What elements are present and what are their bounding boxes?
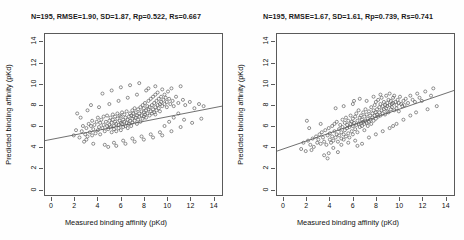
scatter-point [112,141,115,144]
scatter-point [404,97,407,100]
scatter-point [354,139,357,142]
scatter-point [78,136,81,139]
y-tick [271,41,275,42]
scatter-point [426,108,429,111]
x-axis-title-right: Measured binding affinity (pKd) [232,218,464,227]
scatter-point [409,94,412,97]
scatter-point [416,92,419,95]
y-tick [271,126,275,127]
scatter-point [188,100,191,103]
scatter-point [165,100,168,103]
scatter-point [170,87,173,90]
y-tick-label: 2 [262,163,269,173]
y-tick [39,147,43,148]
scatter-point [406,101,409,104]
scatter-point [348,136,351,139]
scatter-canvas-left [45,34,222,195]
scatter-point [79,116,82,119]
x-tick [190,197,191,201]
scatter-point [119,129,122,132]
scatter-point [342,105,345,108]
scatter-point [126,96,129,99]
scatter-point [308,127,311,130]
scatter-point [310,149,313,152]
y-tick [271,147,275,148]
scatter-point [95,120,98,123]
scatter-point [161,134,164,137]
scatter-point [344,135,347,138]
y-tick-label: 8 [30,99,37,109]
y-tick [39,41,43,42]
y-axis-title-right-text: Predicted binding affinity (pKd) [236,64,245,165]
scatter-point [347,119,350,122]
x-tick [329,197,330,201]
scatter-point [320,131,323,134]
scatter-point [130,124,133,127]
scatter-point [367,110,370,113]
scatter-point [395,122,398,125]
scatter-point [418,96,421,99]
scatter-point [317,138,320,141]
scatter-point [191,121,194,124]
scatter-point [370,122,373,125]
scatter-point [364,108,367,111]
y-tick [271,190,275,191]
y-tick-label: 4 [30,142,37,152]
scatter-canvas-right [277,34,454,195]
scatter-point [385,94,388,97]
scatter-point [365,99,368,102]
scatter-point [179,126,182,129]
scatter-point [156,91,159,94]
scatter-point [169,103,172,106]
scatter-point [117,99,120,102]
scatter-points [300,87,439,160]
scatter-point [97,106,100,109]
y-tick [39,84,43,85]
scatter-point [358,97,361,100]
x-tick [214,197,215,201]
x-tick [74,197,75,201]
scatter-point [344,116,347,119]
x-tick-label: 14 [210,202,218,209]
y-axis-title-right: Predicted binding affinity (pKd) [234,33,246,196]
scatter-point [181,98,184,101]
y-tick [271,84,275,85]
scatter-point [334,107,337,110]
scatter-point [96,116,99,119]
scatter-point [351,103,354,106]
scatter-point [138,82,141,85]
y-tick-label: 0 [30,184,37,194]
x-tick-label: 10 [163,202,171,209]
scatter-point [135,93,138,96]
scatter-point [91,119,94,122]
scatter-point [94,132,97,135]
x-tick [446,197,447,201]
x-tick-label: 14 [442,202,450,209]
scatter-point [158,131,161,134]
plot-frame-left [44,33,223,196]
scatter-panel-left: N=195, RMSE=1.90, SD=1.87, Rp=0.522, Rs=… [0,0,232,240]
scatter-point [81,124,84,127]
scatter-point [432,87,435,90]
scatter-point [380,96,383,99]
scatter-point [366,124,369,127]
scatter-point [124,142,127,145]
panel-title-right: N=195, RMSE=1.67, SD=1.61, Rp=0.739, Rs=… [232,12,464,21]
scatter-points [72,82,205,149]
x-tick-label: 6 [351,202,355,209]
scatter-point [341,126,344,129]
y-tick [39,63,43,64]
scatter-point [336,140,339,143]
scatter-point [429,94,432,97]
scatter-point [102,115,105,118]
scatter-point [174,95,177,98]
scatter-point [356,119,359,122]
scatter-point [163,93,166,96]
y-axis-title-left: Predicted binding affinity (pKd) [2,33,14,196]
scatter-point [319,142,322,145]
scatter-point [119,86,122,89]
scatter-point [193,107,196,110]
y-tick-label: 6 [30,121,37,131]
y-tick-label: 6 [262,121,269,131]
x-axis-title-left: Measured binding affinity (pKd) [0,218,232,227]
